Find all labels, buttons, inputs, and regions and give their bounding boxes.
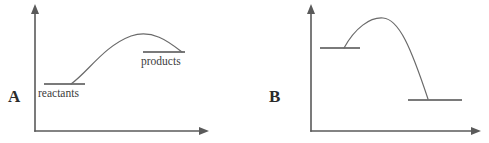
panel-a-diagram (0, 0, 245, 143)
panel-a: A reactants products (0, 0, 245, 143)
panel-a-x-axis-arrowhead (199, 127, 209, 135)
panel-b: B reactants products (245, 0, 489, 143)
energy-diagram-figure: A reactants products B (0, 0, 489, 143)
panel-a-y-axis-arrowhead (31, 4, 39, 14)
panel-b-energy-curve (344, 18, 428, 99)
panel-b-x-axis-arrowhead (471, 127, 481, 135)
panel-a-products-label: products (141, 56, 181, 68)
panel-b-diagram (245, 0, 489, 143)
panel-b-y-axis-arrowhead (307, 4, 315, 14)
panel-a-reactants-label: reactants (38, 88, 79, 100)
